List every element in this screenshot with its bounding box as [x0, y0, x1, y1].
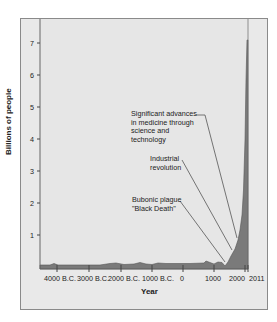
annotation-industrial-revolution: Industrial revolution — [150, 155, 181, 172]
annotation-black-death: Bubonic plague "Black Death" — [132, 196, 182, 213]
population-chart: 1 2 3 4 5 6 7 4000 B.C. 3000 B.C. 2000 B… — [0, 0, 277, 322]
svg-text:3000 B.C.: 3000 B.C. — [77, 274, 109, 283]
annotation-line: technology — [131, 136, 197, 145]
x-axis-label: Year — [141, 287, 158, 296]
svg-text:1: 1 — [30, 231, 34, 240]
svg-text:2000 B.C.: 2000 B.C. — [108, 274, 140, 283]
svg-text:2000: 2000 — [229, 274, 245, 283]
svg-text:1000: 1000 — [205, 274, 221, 283]
svg-text:5: 5 — [30, 103, 34, 112]
x-tick-labels: 4000 B.C. 3000 B.C. 2000 B.C. 1000 B.C. … — [44, 274, 264, 283]
svg-text:2: 2 — [30, 199, 34, 208]
svg-text:0: 0 — [180, 274, 184, 283]
annotation-line: revolution — [150, 164, 181, 173]
svg-text:4: 4 — [30, 135, 34, 144]
svg-text:7: 7 — [30, 39, 34, 48]
svg-text:6: 6 — [30, 71, 34, 80]
svg-text:1000 B.C.: 1000 B.C. — [142, 274, 174, 283]
annotation-medicine: Significant advances in medicine through… — [131, 110, 197, 144]
y-tick-labels: 1 2 3 4 5 6 7 — [30, 39, 34, 240]
annotation-line: "Black Death" — [132, 205, 182, 214]
y-axis-label: Billions of people — [4, 88, 13, 155]
svg-text:4000 B.C.: 4000 B.C. — [44, 274, 76, 283]
svg-text:3: 3 — [30, 167, 34, 176]
svg-text:2011: 2011 — [249, 274, 264, 283]
